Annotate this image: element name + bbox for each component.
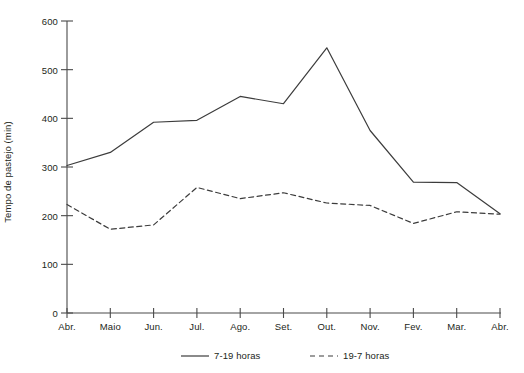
y-tick-label: 300 bbox=[22, 162, 58, 173]
y-axis-title: Tempo de pastejo (min) bbox=[2, 121, 13, 222]
x-tick-label: Abr. bbox=[58, 321, 75, 332]
legend-label-day: 7-19 horas bbox=[214, 350, 260, 361]
line-chart: Tempo de pastejo (min) 01002003004005006… bbox=[0, 0, 524, 373]
x-tick-label: Nov. bbox=[360, 321, 379, 332]
series-line-day bbox=[67, 48, 500, 214]
x-tick-label: Out. bbox=[318, 321, 336, 332]
x-tick-label: Maio bbox=[100, 321, 121, 332]
axes bbox=[67, 21, 501, 313]
x-tick-label: Set. bbox=[275, 321, 292, 332]
x-tick-label: Abr. bbox=[491, 321, 508, 332]
y-tick-label: 100 bbox=[22, 259, 58, 270]
y-tick-label: 200 bbox=[22, 210, 58, 221]
y-tick-label: 600 bbox=[22, 16, 58, 27]
plot-area bbox=[0, 0, 524, 373]
x-tick-label: Ago. bbox=[230, 321, 250, 332]
y-tick-label: 400 bbox=[22, 113, 58, 124]
data-series-group bbox=[67, 48, 500, 230]
legend-label-night: 19-7 horas bbox=[343, 350, 389, 361]
x-tick-label: Mar. bbox=[447, 321, 466, 332]
x-tick-label: Jul. bbox=[189, 321, 204, 332]
y-tick-label: 500 bbox=[22, 64, 58, 75]
x-tick-label: Jun. bbox=[144, 321, 162, 332]
series-line-night bbox=[67, 187, 500, 229]
x-tick-label: Fev. bbox=[404, 321, 422, 332]
y-tick-label: 0 bbox=[22, 308, 58, 319]
